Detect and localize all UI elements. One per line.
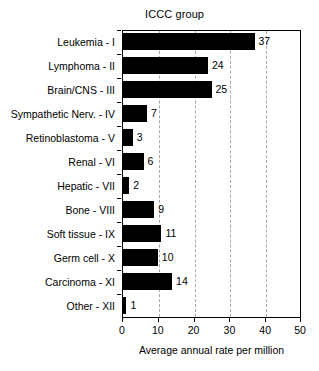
bar-carcinoma [122, 273, 172, 290]
bar-other [122, 297, 126, 314]
x-tick [158, 318, 159, 322]
bar-row: 9 [122, 198, 301, 222]
y-tick [117, 198, 121, 199]
x-tick [194, 318, 195, 322]
y-tick [117, 270, 121, 271]
x-tick [265, 318, 266, 322]
bar-value-renal: 6 [148, 153, 154, 170]
bar-bone [122, 201, 154, 218]
chart-title: ICCC group [145, 8, 204, 21]
bar-row: 10 [122, 246, 301, 270]
y-label-carcinoma: Carcinoma - XI [0, 270, 119, 294]
bar-value-soft-tissue: 11 [165, 225, 176, 242]
bar-hepatic [122, 177, 129, 194]
x-tick [300, 318, 301, 322]
y-tick [117, 150, 121, 151]
y-tick [117, 78, 121, 79]
y-tick [117, 30, 121, 31]
x-tick [122, 318, 123, 322]
x-tick-label-30: 30 [217, 324, 241, 336]
y-tick [117, 102, 121, 103]
x-tick-label-50: 50 [288, 324, 312, 336]
bar-value-hepatic: 2 [133, 177, 139, 194]
bar-row: 3 [122, 126, 301, 150]
bar-value-sympathetic: 7 [151, 105, 157, 122]
bar-row: 25 [122, 78, 301, 102]
x-tick [229, 318, 230, 322]
bar-lymphoma [122, 57, 208, 74]
y-label-sympathetic: Sympathetic Nerv. - IV [0, 102, 119, 126]
x-tick-label-40: 40 [253, 324, 277, 336]
y-label-other: Other - XII [0, 294, 119, 318]
bar-value-lymphoma: 24 [212, 57, 224, 74]
y-label-hepatic: Hepatic - VII [0, 174, 119, 198]
bar-retinoblastoma [122, 129, 133, 146]
x-tick-label-0: 0 [110, 324, 134, 336]
bar-renal [122, 153, 144, 170]
y-label-soft-tissue: Soft tissue - IX [0, 222, 119, 246]
bar-value-brain-cns: 25 [216, 81, 228, 98]
bars-layer: 37 24 25 7 3 6 2 9 [122, 30, 301, 318]
bar-row: 11 [122, 222, 301, 246]
bar-value-bone: 9 [158, 201, 164, 218]
y-tick [117, 222, 121, 223]
x-tick-label-20: 20 [182, 324, 206, 336]
y-label-lymphoma: Lymphoma - II [0, 54, 119, 78]
bar-row: 1 [122, 294, 301, 318]
y-tick [117, 294, 121, 295]
y-label-leukemia: Leukemia - I [0, 30, 119, 54]
bar-row: 37 [122, 30, 301, 54]
bar-soft-tissue [122, 225, 161, 242]
x-tick-label-10: 10 [146, 324, 170, 336]
bar-row: 6 [122, 150, 301, 174]
bar-row: 2 [122, 174, 301, 198]
y-label-brain-cns: Brain/CNS - III [0, 78, 119, 102]
bar-row: 24 [122, 54, 301, 78]
y-tick [117, 174, 121, 175]
bar-value-leukemia: 37 [259, 33, 271, 50]
y-tick [117, 246, 121, 247]
bar-germ-cell [122, 249, 158, 266]
bar-value-carcinoma: 14 [176, 273, 188, 290]
bar-value-retinoblastoma: 3 [137, 129, 143, 146]
y-label-retinoblastoma: Retinoblastoma - V [0, 126, 119, 150]
bar-chart-figure: ICCC group Leukemia - I Lymphoma - II Br… [0, 0, 319, 371]
bar-row: 14 [122, 270, 301, 294]
bar-row: 7 [122, 102, 301, 126]
y-tick [117, 126, 121, 127]
x-axis-title: Average annual rate per million [122, 344, 301, 356]
bar-sympathetic [122, 105, 147, 122]
y-tick [117, 54, 121, 55]
bar-brain-cns [122, 81, 212, 98]
y-label-renal: Renal - VI [0, 150, 119, 174]
bar-value-other: 1 [131, 297, 137, 314]
y-label-bone: Bone - VIII [0, 198, 119, 222]
y-axis-labels: Leukemia - I Lymphoma - II Brain/CNS - I… [0, 30, 119, 318]
y-label-germ-cell: Germ cell - X [0, 246, 119, 270]
bar-leukemia [122, 33, 255, 50]
bar-value-germ-cell: 10 [162, 249, 174, 266]
